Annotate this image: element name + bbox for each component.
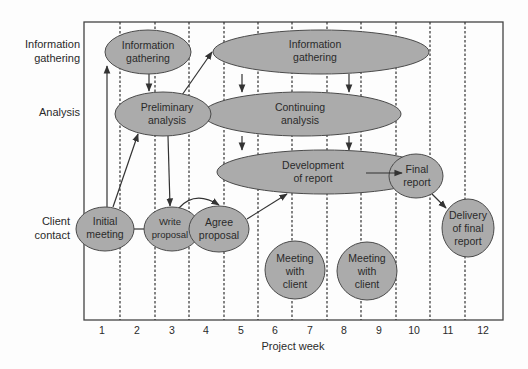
row-label-client-contact: Clientcontact [35, 215, 70, 241]
node-info-gathering-1: Informationgathering [105, 30, 191, 74]
node-info-gathering-2: Informationgathering [213, 30, 429, 74]
edges [107, 52, 446, 229]
tick-week-4: 4 [203, 324, 209, 336]
tick-week-5: 5 [238, 324, 244, 336]
edge-agree-to-development [247, 194, 287, 219]
tick-week-7: 7 [307, 324, 313, 336]
svg-text:Informationgathering: Informationgathering [122, 39, 175, 64]
project-timeline-diagram: Informationgathering Analysis Clientcont… [0, 0, 528, 369]
node-meeting-with-client-2: Meetingwithclient [337, 242, 397, 300]
tick-week-2: 2 [134, 324, 140, 336]
node-continuing-analysis: Continuinganalysis [203, 92, 401, 136]
node-initial-meeting: Initialmeeting [76, 207, 134, 251]
row-label-information-gathering: Informationgathering [25, 38, 80, 64]
node-final-report: Finalreport [389, 154, 443, 198]
tick-week-9: 9 [376, 324, 382, 336]
edge-initial-to-prelim [113, 134, 138, 207]
node-agree-proposal: Agreeproposal [189, 206, 249, 252]
node-delivery-of-final-report: Deliveryof finalreport [442, 199, 494, 257]
node-meeting-with-client-1: Meetingwithclient [265, 241, 325, 299]
x-axis-ticks: 1 2 3 4 5 6 7 8 9 10 11 12 [99, 324, 489, 336]
tick-week-11: 11 [443, 324, 454, 336]
tick-week-6: 6 [272, 324, 278, 336]
tick-week-3: 3 [169, 324, 175, 336]
svg-text:Continuinganalysis: Continuinganalysis [275, 101, 325, 126]
tick-week-10: 10 [408, 324, 420, 336]
tick-week-12: 12 [477, 324, 489, 336]
row-labels: Informationgathering Analysis Clientcont… [25, 38, 81, 241]
edge-prelim-to-write [168, 136, 170, 206]
svg-text:Informationgathering: Informationgathering [289, 38, 342, 63]
tick-week-8: 8 [341, 324, 347, 336]
row-label-analysis: Analysis [39, 106, 80, 118]
nodes: Informationgathering Informationgatherin… [76, 30, 494, 300]
tick-week-1: 1 [99, 324, 105, 336]
svg-text:Finalreport: Finalreport [403, 163, 431, 188]
x-axis-title: Project week [262, 340, 325, 352]
edge-final-to-delivery [432, 194, 446, 208]
node-preliminary-analysis: Preliminaryanalysis [115, 92, 211, 136]
